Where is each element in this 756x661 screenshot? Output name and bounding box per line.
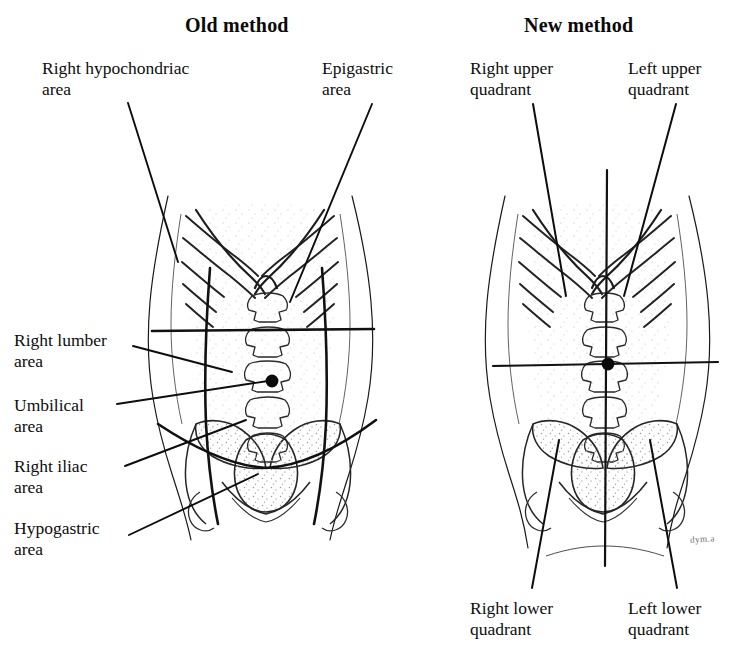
new-method-torso: [485, 104, 718, 588]
leader-left-lower-quadrant: [650, 440, 677, 588]
label-left-upper-quadrant: Left upper quadrant: [628, 58, 701, 100]
artist-signature: dym.a: [690, 533, 715, 544]
umbilicus-marker-new: [602, 358, 615, 371]
panel-title-old-method: Old method: [185, 14, 289, 37]
label-umbilical-area: Umbilical area: [14, 395, 84, 437]
subcostal-line: [152, 329, 374, 331]
label-right-lumber-area: Right lumber area: [14, 330, 107, 372]
leader-right-lower-quadrant: [532, 440, 559, 588]
label-right-iliac-area: Right iliac area: [14, 456, 87, 498]
label-right-upper-quadrant: Right upper quadrant: [470, 58, 553, 100]
label-hypogastric-area: Hypogastric area: [14, 518, 100, 560]
old-method-torso: [117, 103, 376, 540]
label-epigastric-area: Epigastric area: [322, 58, 393, 100]
label-right-lower-quadrant: Right lower quadrant: [470, 598, 553, 640]
label-right-hypochondriac-area: Right hypochondriac area: [42, 58, 189, 100]
panel-title-new-method: New method: [524, 14, 633, 37]
leader-right-hypochondriac: [128, 103, 178, 262]
label-left-lower-quadrant: Left lower quadrant: [628, 598, 701, 640]
abdominal-regions-figure: Old method New method Right hypochondria…: [0, 0, 756, 661]
